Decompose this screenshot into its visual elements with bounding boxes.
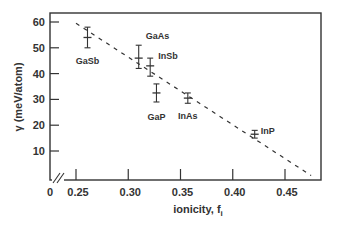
x-tick-label: 0.45 <box>276 186 297 198</box>
ionicity-chart: 102030405060 0.250.300.350.400.450 GaSbG… <box>0 0 337 225</box>
x-axis-title: ionicity, fi <box>173 203 223 218</box>
x-tick-label: 0.25 <box>67 186 88 198</box>
y-tick-label: 10 <box>33 145 45 157</box>
x-tick-label: 0.40 <box>224 186 245 198</box>
y-tick-label: 30 <box>33 93 45 105</box>
data-point-inas: InAs <box>178 93 198 121</box>
data-point-gaas: GaAs <box>135 31 170 68</box>
x-axis-title-subscript: i <box>221 209 223 218</box>
y-tick-label: 50 <box>33 42 45 54</box>
data-point-gasb: GaSb <box>76 27 100 66</box>
point-label: GaSb <box>76 56 100 66</box>
point-label: GaAs <box>146 31 170 41</box>
y-axis-title: γ (meV/atom) <box>12 62 24 131</box>
data-points: GaSbGaAsInSbGaPInAsInP <box>76 27 275 138</box>
fit-line <box>76 23 311 175</box>
point-label: InAs <box>178 111 198 121</box>
x-origin-label: 0 <box>47 186 53 198</box>
axis-break-mask <box>52 172 64 182</box>
x-tick-label: 0.30 <box>120 186 141 198</box>
point-label: InSb <box>158 51 178 61</box>
point-label: InP <box>261 126 275 136</box>
x-tick-label: 0.35 <box>172 186 193 198</box>
data-point-gap: GaP <box>147 84 165 122</box>
y-tick-label: 40 <box>33 68 45 80</box>
y-tick-label: 60 <box>33 16 45 28</box>
data-point-insb: InSb <box>146 51 178 76</box>
y-tick-label: 20 <box>33 119 45 131</box>
data-point-inp: InP <box>251 126 275 138</box>
dashed-fit-line <box>76 23 311 175</box>
y-axis-ticks: 102030405060 <box>33 16 59 157</box>
point-label: GaP <box>147 112 165 122</box>
x-axis-ticks: 0.250.300.350.400.450 <box>47 169 298 198</box>
